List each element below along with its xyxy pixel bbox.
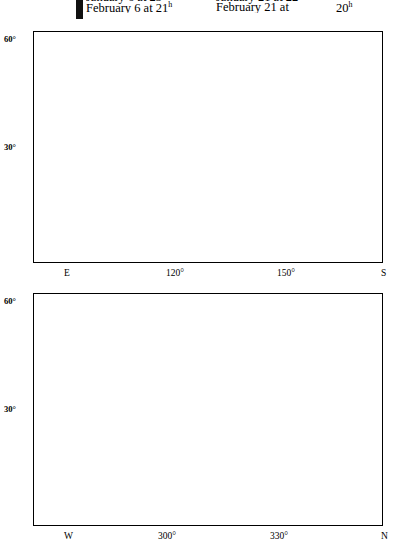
chart-top-ylabel-30: 30° <box>4 142 16 152</box>
southern-evening-sky-chart: 100 110 120 130 140 150 160 170 GEMINI P… <box>33 31 383 263</box>
axis-label-120: 120° <box>166 268 184 278</box>
chart-bottom-ylabel-60: 60° <box>4 296 16 306</box>
chart-header: January 6 at 23h January 21 at 22h Febru… <box>0 0 394 24</box>
northern-evening-sky-chart: 10 PERSEUS ANDROMEDA ARIES PISCES <box>33 293 383 526</box>
header-marker-bar <box>76 0 83 19</box>
chart-top-ylabel-60: 60° <box>4 34 16 44</box>
chart-bottom-ylabel-30: 30° <box>4 404 16 414</box>
chart-top-frame <box>33 31 383 263</box>
axis-label-west: W <box>64 531 73 541</box>
axis-label-330: 330° <box>270 531 288 541</box>
axis-label-south: S <box>381 268 386 278</box>
chart-bottom-frame <box>33 293 383 526</box>
axis-label-300: 300° <box>158 531 176 541</box>
header-col2-hour: 20h <box>336 0 353 13</box>
axis-label-east: E <box>64 268 70 278</box>
axis-label-north: N <box>381 531 388 541</box>
chart-top-x-axis-labels: E 120° 150° S <box>0 268 394 284</box>
header-col1-date: February 6 at 21h <box>86 0 172 13</box>
header-col2-date: February 21 at <box>216 0 289 13</box>
axis-label-150: 150° <box>277 268 295 278</box>
header-date-columns: January 6 at 23h January 21 at 22h Febru… <box>86 0 394 13</box>
chart-bottom-x-axis-labels: W 300° 330° N <box>0 531 394 547</box>
